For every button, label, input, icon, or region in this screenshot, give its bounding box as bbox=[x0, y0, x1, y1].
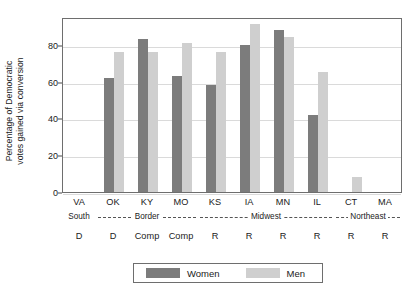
bar-ok-men bbox=[114, 52, 124, 192]
x-axis-party-label: R bbox=[232, 230, 266, 242]
x-axis-party-label: R bbox=[300, 230, 334, 242]
legend-item-men: Men bbox=[246, 268, 305, 279]
x-axis-party-label: R bbox=[368, 230, 402, 242]
bar-ky-men bbox=[148, 52, 158, 192]
x-axis-party-label: R bbox=[266, 230, 300, 242]
legend-item-women: Women bbox=[146, 268, 220, 279]
y-axis-tick-label: 0 bbox=[32, 188, 58, 198]
x-axis-region-northeast: Northeast bbox=[334, 211, 402, 223]
x-axis: VADOKDKYCompMOCompKSRIARMNRILRCTRMARSout… bbox=[62, 196, 402, 256]
bar-ky-women bbox=[138, 39, 148, 192]
region-label: Northeast bbox=[348, 211, 388, 223]
x-axis-party-label: Comp bbox=[130, 230, 164, 242]
bar-ks-women bbox=[206, 85, 216, 192]
x-axis-party-label: R bbox=[198, 230, 232, 242]
y-axis-tick-label: 20 bbox=[32, 151, 58, 161]
bar-mo-men bbox=[182, 43, 192, 192]
x-axis-state-label: VA bbox=[62, 196, 96, 208]
x-axis-state-label: MN bbox=[266, 196, 300, 208]
y-axis-title-line-2: votes gained via conversion bbox=[15, 57, 26, 164]
region-label: Border bbox=[133, 211, 162, 223]
x-axis-state-label: KS bbox=[198, 196, 232, 208]
y-axis-tick-labels: 020406080 bbox=[26, 0, 58, 290]
x-axis-state-label: OK bbox=[96, 196, 130, 208]
bar-il-men bbox=[318, 72, 328, 192]
bar-il-women bbox=[308, 115, 318, 192]
x-axis-party-label: D bbox=[96, 230, 130, 242]
region-label: South bbox=[66, 211, 91, 223]
x-axis-region-south: South bbox=[62, 211, 96, 223]
y-axis-tick-label: 80 bbox=[32, 41, 58, 51]
y-axis-title-line-1: Percentage of Democratic bbox=[4, 57, 15, 164]
y-axis-tick-label: 40 bbox=[32, 114, 58, 124]
region-label: Midwest bbox=[249, 211, 283, 223]
bar-ks-men bbox=[216, 52, 226, 192]
x-axis-state-label: KY bbox=[130, 196, 164, 208]
x-axis-state-label: MO bbox=[164, 196, 198, 208]
legend-label-women: Women bbox=[187, 268, 220, 279]
y-axis-tick-label: 60 bbox=[32, 78, 58, 88]
legend-label-men: Men bbox=[287, 268, 305, 279]
x-axis-region-midwest: Midwest bbox=[198, 211, 334, 223]
bar-mn-women bbox=[274, 30, 284, 192]
bar-ct-men bbox=[352, 177, 362, 192]
x-axis-state-label: MA bbox=[368, 196, 402, 208]
bars-layer bbox=[63, 19, 401, 192]
gridline bbox=[63, 194, 401, 195]
legend: Women Men bbox=[133, 263, 323, 283]
bar-ia-women bbox=[240, 45, 250, 192]
bar-mo-women bbox=[172, 76, 182, 192]
legend-swatch-men-icon bbox=[246, 268, 280, 278]
x-axis-state-label: IL bbox=[300, 196, 334, 208]
x-axis-party-label: Comp bbox=[164, 230, 198, 242]
x-axis-region-border: Border bbox=[96, 211, 198, 223]
bar-ok-women bbox=[104, 78, 114, 192]
legend-swatch-women-icon bbox=[146, 268, 180, 278]
x-axis-state-label: IA bbox=[232, 196, 266, 208]
bar-ia-men bbox=[250, 24, 260, 192]
x-axis-state-label: CT bbox=[334, 196, 368, 208]
plot-area bbox=[62, 18, 402, 193]
x-axis-party-label: D bbox=[62, 230, 96, 242]
x-axis-party-label: R bbox=[334, 230, 368, 242]
bar-chart: Percentage of Democratic votes gained vi… bbox=[0, 0, 414, 290]
bar-mn-men bbox=[284, 37, 294, 192]
